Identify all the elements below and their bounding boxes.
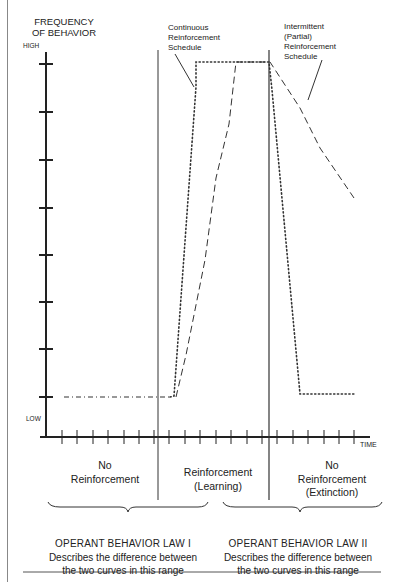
x-axis-label: TIME [360,441,377,449]
intermittent-reinforcement-curve [176,62,354,397]
intermittent-leader-line [308,60,322,100]
annotation-continuous: Continuous Reinforcement Schedule [168,23,220,53]
y-low-label: LOW [26,415,41,422]
operant-law-1: OPERANT BEHAVIOR LAW I Describes the dif… [38,537,208,578]
law-title: OPERANT BEHAVIOR LAW II [213,537,383,551]
phase-line: (Extinction) [277,486,387,500]
annotation-line: Reinforcement [168,33,220,43]
y-high-label: HIGH [23,42,39,49]
continuous-leader-line [175,54,194,87]
annotation-line: Schedule [168,43,220,53]
phase-line: No [55,459,155,473]
law-title: OPERANT BEHAVIOR LAW I [38,537,208,551]
y-axis-label: FREQUENCY OF BEHAVIOR [27,17,101,39]
phase-line: Reinforcement [55,473,155,487]
brace-law-1 [48,502,208,512]
law-description: the two curves in this range [38,564,208,578]
y-axis-label-line2: OF BEHAVIOR [27,28,101,39]
phase-label-learning: Reinforcement (Learning) [163,466,273,493]
annotation-line: Reinforcement [284,42,336,52]
law-description: the two curves in this range [213,564,383,578]
annotation-intermittent: Intermittent (Partial) Reinforcement Sch… [284,22,336,62]
phase-line: (Learning) [163,480,273,494]
brace-law-2 [223,502,382,512]
law-description: Describes the difference between [213,551,383,565]
phase-label-extinction: No Reinforcement (Extinction) [277,459,387,500]
continuous-reinforcement-curve [170,62,356,397]
phase-label-no-reinforcement: No Reinforcement [55,459,155,486]
annotation-line: Intermittent [284,22,336,32]
phase-line: Reinforcement [277,473,387,487]
annotation-line: Schedule [284,52,336,62]
phase-line: Reinforcement [163,466,273,480]
annotation-line: Continuous [168,23,220,33]
law-description: Describes the difference between [38,551,208,565]
annotation-line: (Partial) [284,32,336,42]
phase-line: No [277,459,387,473]
operant-law-2: OPERANT BEHAVIOR LAW II Describes the di… [213,537,383,578]
